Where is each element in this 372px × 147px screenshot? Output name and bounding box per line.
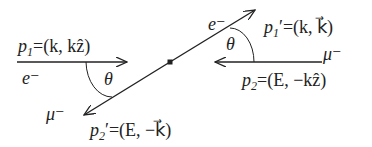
outgoing-electron-particle-label: e⁻ [208,14,226,34]
angle-label-right: θ [226,34,235,54]
outgoing-muon-arrow [84,62,170,115]
scattering-diagram: p1=(k, kẑ) e⁻ θ θ e⁻ p1′=(k, k⃗) μ⁻ p2=(… [0,0,372,147]
incoming-electron-particle-label: e⁻ [22,68,40,88]
interaction-vertex [168,60,173,65]
outgoing-muon-particle-label: μ⁻ [45,104,65,124]
angle-label-left: θ [104,69,113,89]
incoming-muon-momentum-label: p2=(E, −kẑ) [240,70,326,93]
incoming-muon-particle-label: μ⁻ [322,44,342,64]
outgoing-muon-momentum-label: p2′=(E, −k⃗) [88,119,171,143]
incoming-electron-momentum-label: p1=(k, kẑ) [16,36,90,59]
outgoing-electron-momentum-label: p1′=(k, k⃗) [262,16,333,40]
